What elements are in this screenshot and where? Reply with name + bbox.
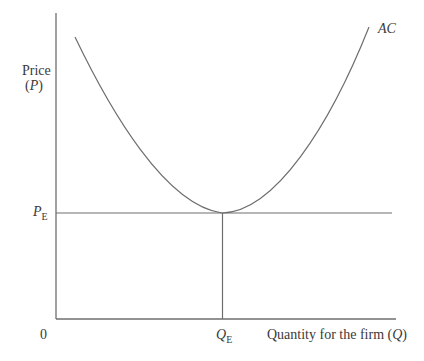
average-cost-curve [75,27,369,213]
x-axis-label-text: Quantity for the firm [267,327,384,342]
pe-symbol: P [33,204,42,219]
y-axis-symbol: (P) [25,78,43,94]
x-axis-symbol: Q [392,327,402,342]
qe-symbol: Q [216,327,226,342]
origin-label: 0 [40,327,47,343]
y-axis-symbol-text: P [30,78,39,93]
quantity-equilibrium-label: QE [216,327,232,344]
price-equilibrium-label: PE [33,204,48,221]
diagram-canvas [0,0,424,361]
ac-curve-label: AC [378,21,396,37]
qe-subscript: E [226,334,232,345]
pe-subscript: E [42,211,48,222]
x-axis-label: Quantity for the firm (Q) [267,327,407,343]
y-axis-label: Price [22,63,51,79]
